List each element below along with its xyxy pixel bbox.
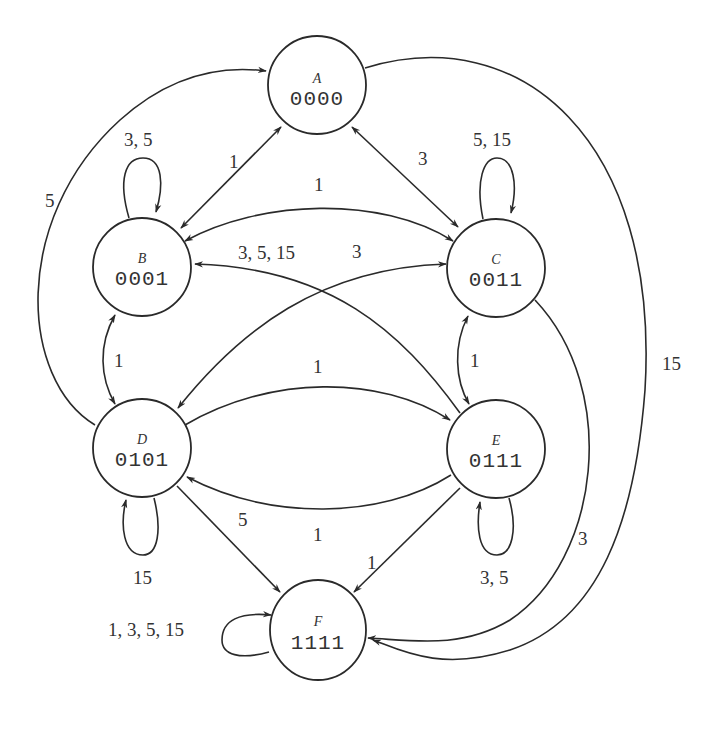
node-b-name: B — [138, 251, 147, 266]
label-b-c: 1 — [314, 174, 324, 195]
edge-e-b — [195, 264, 460, 413]
edge-d-loop — [123, 498, 158, 555]
label-a-c: 3 — [418, 148, 428, 169]
node-e-code: 0111 — [469, 450, 523, 473]
edge-c-e — [458, 316, 469, 404]
label-c-loop: 5, 15 — [473, 129, 511, 150]
node-f-code: 1111 — [291, 632, 345, 655]
label-d-c: 3 — [352, 241, 362, 262]
label-d-a: 5 — [45, 190, 55, 211]
edge-b-c — [185, 208, 453, 241]
node-b-code: 0001 — [115, 268, 169, 291]
node-a-code: 0000 — [290, 88, 344, 111]
node-b: B 0001 — [93, 218, 191, 316]
node-d: D 0101 — [93, 399, 191, 497]
label-d-loop: 15 — [133, 567, 152, 588]
edge-f-loop — [222, 614, 271, 655]
label-e-d: 1 — [313, 524, 323, 545]
node-d-name: D — [136, 432, 147, 447]
node-c-name: C — [491, 252, 501, 267]
node-c-code: 0011 — [469, 269, 523, 292]
node-f: F 1111 — [270, 580, 366, 680]
edge-b-loop — [124, 158, 161, 218]
label-c-f: 3 — [578, 528, 588, 549]
node-e: E 0111 — [447, 400, 545, 498]
label-b-loop: 3, 5 — [124, 129, 153, 150]
edge-e-d — [187, 475, 451, 509]
node-a-name: A — [312, 71, 322, 86]
node-f-name: F — [313, 614, 323, 629]
label-e-loop: 3, 5 — [480, 567, 509, 588]
label-e-f: 1 — [367, 552, 377, 573]
edge-d-c — [178, 264, 446, 408]
node-d-code: 0101 — [115, 449, 169, 472]
label-c-e: 1 — [470, 350, 480, 371]
label-e-b: 3, 5, 15 — [238, 242, 295, 263]
label-d-f: 5 — [238, 509, 248, 530]
node-a: A 0000 — [268, 36, 366, 134]
node-c: C 0011 — [447, 219, 545, 317]
label-d-e: 1 — [313, 356, 323, 377]
edge-c-loop — [480, 158, 514, 219]
label-f-loop: 1, 3, 5, 15 — [108, 619, 184, 640]
state-diagram: A 0000 B 0001 C 0011 D 0101 E 0111 F 111… — [0, 0, 717, 730]
edge-d-e — [185, 387, 450, 425]
edge-d-f — [177, 486, 280, 592]
label-a-b: 1 — [229, 151, 239, 172]
edge-e-f — [354, 488, 460, 592]
node-e-name: E — [491, 433, 501, 448]
edge-e-loop — [478, 498, 513, 555]
label-a-f: 15 — [662, 353, 681, 374]
label-b-d: 1 — [114, 350, 124, 371]
